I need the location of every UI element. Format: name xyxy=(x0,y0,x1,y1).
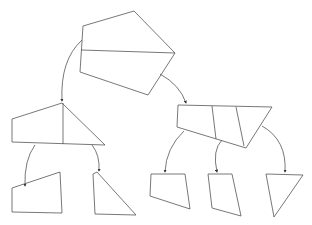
edge-right-mid-to-leaf-5 xyxy=(262,126,285,172)
node-leaf-1 xyxy=(12,172,62,213)
edge-root-to-left-mid xyxy=(62,40,82,101)
quad-split-shape xyxy=(177,105,272,148)
node-leaf-3 xyxy=(150,174,190,209)
triangle-shape xyxy=(266,174,303,217)
node-leaf-4 xyxy=(208,174,241,216)
nodes xyxy=(12,11,303,217)
edge-right-mid-to-leaf-4 xyxy=(215,140,222,172)
pentagon-shape xyxy=(80,11,175,95)
node-leaf-5 xyxy=(266,174,303,217)
quad-shape xyxy=(150,174,190,209)
triangle-shape xyxy=(93,172,136,215)
quad-shape xyxy=(12,172,62,213)
quad-shape xyxy=(208,174,241,216)
node-root xyxy=(80,11,175,95)
node-leaf-2 xyxy=(93,172,136,215)
divider-line xyxy=(81,50,175,53)
divider-line xyxy=(236,107,244,146)
edges xyxy=(25,40,285,186)
edge-root-to-right-mid xyxy=(160,74,186,103)
divider-line xyxy=(212,106,216,139)
edge-right-mid-to-leaf-3 xyxy=(165,131,184,172)
tree-diagram xyxy=(0,0,312,225)
edge-left-mid-to-leaf-2 xyxy=(92,145,99,171)
node-right-mid xyxy=(177,105,272,148)
edge-left-mid-to-leaf-1 xyxy=(25,145,35,186)
quad-split-shape xyxy=(12,103,105,145)
node-left-mid xyxy=(12,103,105,145)
